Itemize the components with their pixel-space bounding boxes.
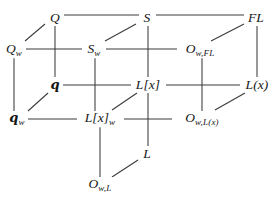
node-OwLx-subscript: w,L(x): [195, 117, 219, 127]
commutative-diagram: Q S FL Qw Sw Ow,FL q L[x] L(x) qw L[x]w …: [0, 0, 279, 200]
node-Lpx: L(x): [244, 78, 270, 92]
node-OwLx: Ow,L(x): [184, 111, 221, 127]
node-Sw-subscript: w: [94, 48, 100, 58]
node-Qw: Qw: [4, 42, 23, 58]
node-Sw: Sw: [86, 42, 102, 58]
node-Lxw: L[x]w: [83, 111, 117, 127]
edge-qw-q: [28, 93, 48, 111]
node-Lx-base: L[x]: [136, 77, 160, 92]
node-qw-base: q: [9, 110, 18, 125]
node-S: S: [142, 11, 152, 25]
node-L-base: L: [143, 146, 151, 161]
edge-layer: [0, 0, 279, 200]
node-OwFL-base: O: [186, 41, 196, 56]
node-q-base: q: [50, 77, 59, 92]
node-Lxw-subscript: w: [109, 117, 115, 127]
node-qw: qw: [8, 111, 26, 127]
node-OwL: Ow,L: [87, 177, 113, 193]
node-Q: Q: [49, 11, 62, 25]
node-Qw-subscript: w: [16, 48, 22, 58]
node-OwFL-subscript: w,FL: [195, 48, 214, 58]
node-OwFL: Ow,FL: [184, 42, 216, 58]
edge-Qw-Q: [25, 24, 45, 41]
node-Q-label: Q: [50, 10, 60, 25]
node-q: q: [49, 78, 61, 92]
horizontal-edges: [26, 15, 244, 119]
node-Lx: L[x]: [134, 78, 161, 92]
node-FL-label: FL: [248, 10, 264, 25]
node-Qw-base: Q: [6, 41, 16, 56]
edge-Sw-S: [105, 24, 136, 41]
node-OwL-base: O: [88, 176, 98, 191]
node-S-label: S: [144, 10, 151, 25]
node-FL: FL: [247, 11, 266, 25]
node-Lxw-base: L[x]: [85, 110, 109, 125]
node-L: L: [142, 147, 153, 161]
node-OwL-subscript: w,L: [98, 183, 111, 193]
node-Lpx-base: L(x): [246, 77, 269, 92]
node-qw-subscript: w: [19, 117, 25, 127]
node-OwLx-base: O: [185, 110, 195, 125]
edge-OwFL-FL: [211, 24, 244, 41]
edge-OwL-L: [112, 160, 138, 177]
edge-Lxw-Lx: [112, 93, 137, 110]
edge-OwLx-Lpx: [215, 93, 245, 110]
